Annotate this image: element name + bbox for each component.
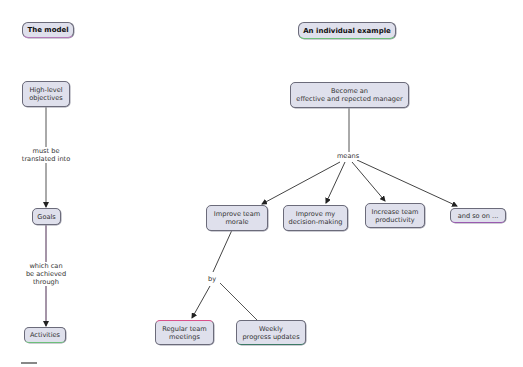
section-title-example-text: An individual example xyxy=(303,27,391,35)
node-text: Improve team morale xyxy=(214,210,260,226)
node-weekly-updates[interactable]: Weekly progress updates xyxy=(236,320,306,345)
node-regular-meetings[interactable]: Regular team meetings xyxy=(155,320,214,345)
node-improve-morale[interactable]: Improve team morale xyxy=(206,205,268,231)
section-title-model: The model xyxy=(22,22,74,38)
node-goals[interactable]: Goals xyxy=(32,208,61,225)
node-text: High-level objectives xyxy=(29,86,63,102)
node-high-level-objectives[interactable]: High-level objectives xyxy=(22,81,70,107)
link-phrase-translated: must be translated into xyxy=(21,147,71,163)
edges-layer xyxy=(0,0,523,367)
link-phrase-means: means xyxy=(336,152,360,160)
node-and-so-on[interactable]: and so on ... xyxy=(450,208,506,223)
node-activities[interactable]: Activities xyxy=(24,327,66,343)
node-root-goal[interactable]: Become an effective and repected manager xyxy=(290,82,409,108)
node-improve-decision[interactable]: Improve my decision-making xyxy=(283,205,348,231)
footer-mark xyxy=(21,362,37,364)
edge-morale-by xyxy=(213,230,232,272)
node-text: Regular team meetings xyxy=(162,325,207,341)
node-text: Become an effective and repected manager xyxy=(296,87,402,103)
node-text: Goals xyxy=(37,213,55,221)
link-phrase-by: by xyxy=(207,275,217,283)
edge-by-weekly xyxy=(220,283,257,320)
edge-by-meetings xyxy=(192,286,210,318)
node-text: Increase team productivity xyxy=(371,208,418,224)
node-text: and so on ... xyxy=(458,212,499,220)
section-title-model-text: The model xyxy=(27,26,68,34)
node-text: Improve my decision-making xyxy=(288,210,342,226)
section-title-example: An individual example xyxy=(298,22,396,39)
node-text: Weekly progress updates xyxy=(242,325,299,341)
node-increase-productivity[interactable]: Increase team productivity xyxy=(365,203,425,228)
edge-means-productivity xyxy=(352,162,385,201)
link-phrase-achieved: which can be achieved through xyxy=(25,262,67,286)
edge-means-andsoon xyxy=(357,160,457,206)
node-text: Activities xyxy=(30,331,60,339)
